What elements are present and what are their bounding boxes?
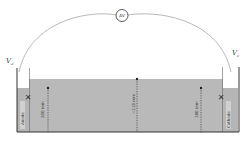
center-depth-dot <box>136 78 138 80</box>
right-voltage-label: Vc <box>232 49 240 58</box>
wire-arc <box>19 14 231 72</box>
center-depth-label: ~110 mm <box>131 94 136 114</box>
voltmeter: ΔV <box>116 10 128 22</box>
cathode-label: Cathode <box>226 111 231 128</box>
right-cross-marker-icon: ✕ <box>218 93 225 102</box>
anode-label: Anode <box>20 112 25 125</box>
left-voltage-label: Va <box>6 57 14 66</box>
voltmeter-label: ΔV <box>119 13 125 18</box>
right-depth-label: 180 mm <box>194 101 199 118</box>
electrochemical-cell-diagram: ΔV Va Vc Anode Cathode ✕ ✕ 200 mm ~110 m… <box>0 0 249 142</box>
left-cross-marker-icon: ✕ <box>25 93 32 102</box>
left-depth-label: 200 mm <box>40 101 45 118</box>
right-depth-dot <box>200 87 202 89</box>
left-depth-dot <box>47 87 49 89</box>
